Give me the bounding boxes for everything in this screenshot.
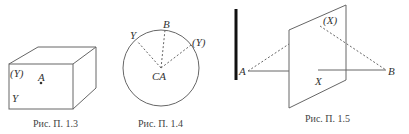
label-y-paren: (Y) bbox=[10, 67, 24, 80]
plane-outline bbox=[289, 5, 346, 108]
figure-1-5-plane bbox=[248, 5, 386, 108]
caption-fig-1-3: Рис. П. 1.3 bbox=[33, 118, 78, 129]
label-x-paren: (X) bbox=[323, 14, 337, 27]
label-a-fig5: A bbox=[238, 65, 246, 77]
caption-fig-1-5: Рис. П. 1.5 bbox=[305, 113, 350, 124]
figures-canvas: (Y) A Y Рис. П. 1.3 Y B (Y) CA Рис. П. 1… bbox=[0, 0, 409, 134]
cube-top-face bbox=[9, 47, 96, 64]
label-b-fig5: B bbox=[388, 65, 395, 77]
dashed-rays bbox=[137, 30, 191, 68]
label-ca: CA bbox=[152, 70, 166, 82]
dashed-rays-fig5 bbox=[248, 26, 386, 71]
cube-right-face bbox=[73, 47, 96, 109]
label-y-paren-circle: (Y) bbox=[192, 36, 206, 49]
label-y: Y bbox=[12, 92, 20, 104]
label-a: A bbox=[37, 71, 45, 83]
label-b-circle: B bbox=[163, 18, 170, 30]
figure-1-4-circle bbox=[123, 30, 199, 106]
label-x: X bbox=[314, 75, 323, 87]
caption-fig-1-4: Рис. П. 1.4 bbox=[138, 118, 183, 129]
